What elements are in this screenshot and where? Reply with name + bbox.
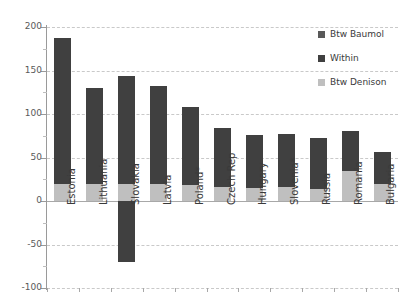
x-axis-label-russia: Russia bbox=[322, 173, 332, 205]
y-axis-label-100: 100 bbox=[8, 109, 42, 118]
y-axis-label-0: 0 bbox=[8, 196, 42, 205]
x-tick-end bbox=[398, 288, 399, 292]
x-tick-1 bbox=[79, 288, 80, 292]
bar-estonia[interactable] bbox=[54, 27, 71, 288]
x-tick-6 bbox=[238, 288, 239, 292]
x-axis-label-poland-: Poland* bbox=[195, 167, 205, 205]
y-minor-tick-75 bbox=[43, 136, 47, 137]
y-axis-label--50: -50 bbox=[8, 240, 42, 249]
bar-poland-[interactable] bbox=[182, 27, 199, 288]
y-minor-tick--75 bbox=[43, 266, 47, 267]
legend-label: Within bbox=[330, 53, 359, 63]
x-axis-label-romania: Romania bbox=[354, 161, 364, 205]
x-tick-10 bbox=[366, 288, 367, 292]
legend-swatch-icon bbox=[318, 55, 325, 62]
legend-item-btw-baumol[interactable]: Btw Baumol bbox=[318, 22, 402, 46]
x-axis-label-estonia: Estonia bbox=[67, 168, 77, 205]
x-axis-label-czech-rep: Czech Rep bbox=[227, 153, 237, 205]
y-minor-tick-25 bbox=[43, 179, 47, 180]
legend-label: Btw Baumol bbox=[330, 29, 384, 39]
legend-swatch-icon bbox=[318, 31, 325, 38]
chart-container: Btw BaumolWithinBtw Denison 200150100500… bbox=[0, 0, 404, 304]
bar-segment-btw-baumol bbox=[118, 201, 135, 262]
bar-segment-within bbox=[54, 38, 71, 183]
bar-lithuania[interactable] bbox=[86, 27, 103, 288]
y-axis-label-50: 50 bbox=[8, 153, 42, 162]
x-tick-3 bbox=[143, 288, 144, 292]
legend-item-within[interactable]: Within bbox=[318, 46, 402, 70]
x-axis-label-slovenia-: Slovenia* bbox=[290, 157, 300, 205]
legend-label: Btw Denison bbox=[330, 77, 387, 87]
x-tick-8 bbox=[302, 288, 303, 292]
x-tick-4 bbox=[175, 288, 176, 292]
y-axis-label-200: 200 bbox=[8, 22, 42, 31]
y-axis-label-150: 150 bbox=[8, 66, 42, 75]
legend-item-btw-denison[interactable]: Btw Denison bbox=[318, 70, 402, 94]
x-axis-label-lithuania: Lithuania bbox=[99, 159, 109, 205]
x-axis-label-slovakia: Slovakia bbox=[131, 163, 141, 205]
y-minor-tick-175 bbox=[43, 49, 47, 50]
chart-legend: Btw BaumolWithinBtw Denison bbox=[318, 22, 402, 94]
x-tick-5 bbox=[207, 288, 208, 292]
legend-swatch-icon bbox=[318, 79, 325, 86]
x-tick-0 bbox=[47, 288, 48, 292]
x-tick-9 bbox=[334, 288, 335, 292]
x-axis-label-bulgaria: Bulgaria bbox=[386, 164, 396, 205]
y-axis-label--100: -100 bbox=[8, 283, 42, 292]
bar-latvia[interactable] bbox=[150, 27, 167, 288]
x-tick-7 bbox=[270, 288, 271, 292]
gridline--100 bbox=[47, 288, 398, 289]
x-axis-label-latvia: Latvia bbox=[163, 175, 173, 205]
bar-slovakia[interactable] bbox=[118, 27, 135, 288]
x-axis-label-hungary: Hungary bbox=[258, 162, 268, 205]
bar-hungary[interactable] bbox=[246, 27, 263, 288]
x-tick-2 bbox=[111, 288, 112, 292]
y-minor-tick--25 bbox=[43, 223, 47, 224]
bar-segment-within bbox=[150, 86, 167, 183]
y-minor-tick-125 bbox=[43, 92, 47, 93]
